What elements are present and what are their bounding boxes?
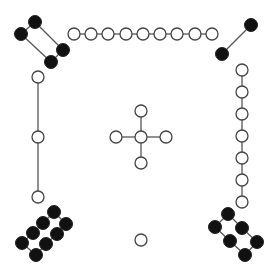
filled-node — [51, 228, 64, 241]
filled-node — [245, 19, 258, 32]
open-node — [160, 131, 172, 143]
open-node — [85, 28, 97, 40]
filled-node — [224, 235, 237, 248]
filled-node — [45, 56, 58, 69]
open-node — [236, 108, 248, 120]
open-node — [171, 28, 183, 40]
top-left-ring — [15, 16, 70, 69]
open-node — [135, 105, 147, 117]
filled-node — [60, 218, 73, 231]
filled-node — [239, 249, 252, 262]
filled-node — [30, 249, 43, 262]
filled-node — [37, 217, 50, 230]
right-chain — [236, 64, 248, 208]
open-node — [137, 28, 149, 40]
open-node — [32, 71, 44, 83]
filled-node — [222, 208, 235, 221]
filled-node — [236, 222, 249, 235]
open-node — [135, 131, 147, 143]
graph-diagram — [0, 0, 274, 278]
filled-node — [57, 44, 70, 57]
filled-node — [48, 206, 61, 219]
open-node — [206, 28, 218, 40]
open-node — [110, 131, 122, 143]
open-node — [236, 64, 248, 76]
filled-node — [216, 48, 229, 61]
open-node — [32, 191, 44, 203]
open-node — [120, 28, 132, 40]
center-star — [110, 105, 172, 169]
open-node — [236, 86, 248, 98]
open-node — [102, 28, 114, 40]
isolated-node — [135, 234, 147, 246]
open-node — [236, 152, 248, 164]
open-node — [236, 130, 248, 142]
filled-node — [209, 221, 222, 234]
bottom-right-ladder — [209, 208, 264, 262]
open-node — [154, 28, 166, 40]
filled-node — [40, 238, 53, 251]
bottom-left-ladder — [16, 206, 73, 262]
open-node — [32, 131, 44, 143]
open-node — [135, 157, 147, 169]
top-chain — [68, 28, 218, 40]
filled-node — [16, 237, 29, 250]
filled-node — [251, 236, 264, 249]
open-node — [236, 174, 248, 186]
open-node — [189, 28, 201, 40]
filled-node — [15, 28, 28, 41]
bottom-right-ladder-edges — [215, 214, 257, 255]
open-node — [236, 196, 248, 208]
filled-node — [27, 227, 40, 240]
top-left-ring-edges — [21, 22, 63, 62]
nodes-layer — [15, 16, 264, 262]
open-node — [135, 234, 147, 246]
open-node — [68, 28, 80, 40]
filled-node — [29, 16, 42, 29]
